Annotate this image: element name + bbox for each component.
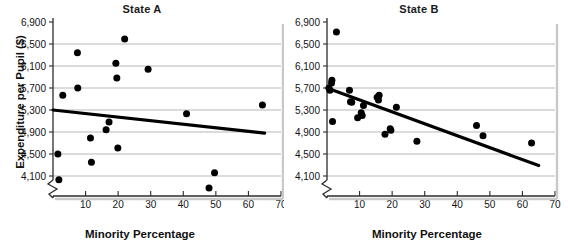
scatter-point: [473, 122, 480, 129]
scatter-point: [88, 159, 95, 166]
scatter-point: [381, 131, 388, 138]
scatter-point: [329, 118, 336, 125]
y-axis-break-icon: [48, 180, 57, 198]
scatter-point: [113, 75, 120, 82]
y-tick-label: 4,500: [295, 149, 320, 160]
y-tick-label: 5,300: [21, 105, 46, 116]
y-tick-label: 6,100: [21, 61, 46, 72]
y-tick-label: 6,100: [295, 61, 320, 72]
scatter-point: [55, 176, 62, 183]
x-tick-label: 30: [419, 199, 431, 210]
scatter-point: [259, 102, 266, 109]
scatter-point: [112, 60, 119, 67]
x-tick-label: 10: [354, 199, 366, 210]
plot-area-state-a: 4,1004,5004,9005,3005,7006,1006,5006,900…: [0, 0, 284, 242]
y-tick-label: 5,700: [21, 83, 46, 94]
scatter-point: [328, 77, 335, 84]
x-tick-label: 10: [80, 199, 92, 210]
scatter-point: [211, 169, 218, 176]
y-tick-label: 4,900: [295, 127, 320, 138]
x-tick-label: 50: [484, 199, 496, 210]
scatter-point: [376, 92, 383, 99]
scatter-point: [480, 132, 487, 139]
x-tick-label: 20: [113, 199, 125, 210]
y-tick-label: 6,500: [21, 39, 46, 50]
x-tick-label: 60: [517, 199, 529, 210]
y-tick-label: 6,900: [21, 17, 46, 28]
x-tick-label: 60: [243, 199, 255, 210]
scatter-point: [393, 104, 400, 111]
scatter-point: [359, 112, 366, 119]
x-axis-label-state-b: Minority Percentage: [302, 228, 552, 240]
scatter-point: [528, 140, 535, 147]
chart-panel-state-a: State A Expenditure per Pupil ($) 4,1004…: [0, 0, 284, 242]
regression-line: [53, 110, 265, 133]
scatter-point: [121, 36, 128, 43]
chart-panel-state-b: State B 4,1004,5004,9005,3005,7006,1006,…: [284, 0, 568, 242]
y-tick-label: 6,900: [295, 17, 320, 28]
x-tick-label: 20: [387, 199, 399, 210]
scatter-point: [59, 92, 66, 99]
x-tick-label: 70: [275, 199, 284, 210]
scatter-point: [54, 151, 61, 158]
scatter-point: [103, 126, 110, 133]
y-tick-label: 5,300: [295, 105, 320, 116]
x-axis-label-state-a: Minority Percentage: [20, 228, 260, 240]
scatter-point: [183, 110, 190, 117]
x-tick-label: 70: [549, 199, 561, 210]
scatter-point: [206, 185, 213, 192]
scatter-point: [87, 135, 94, 142]
x-tick-label: 40: [452, 199, 464, 210]
scatter-point: [145, 66, 152, 73]
y-tick-label: 4,100: [295, 171, 320, 182]
y-tick-label: 5,700: [295, 83, 320, 94]
scatter-point: [74, 49, 81, 56]
scatter-point: [360, 102, 367, 109]
scatter-point: [346, 87, 353, 94]
y-tick-label: 4,100: [21, 171, 46, 182]
x-tick-label: 30: [145, 199, 157, 210]
scatter-point: [387, 127, 394, 134]
scatter-point: [413, 138, 420, 145]
scatter-point: [114, 144, 121, 151]
figure-root: State A Expenditure per Pupil ($) 4,1004…: [0, 0, 568, 242]
scatter-point: [326, 87, 333, 94]
y-axis-break-icon: [322, 180, 331, 198]
scatter-point: [74, 85, 81, 92]
plot-area-state-b: 4,1004,5004,9005,3005,7006,1006,5006,900…: [284, 0, 568, 242]
y-tick-label: 4,900: [21, 127, 46, 138]
y-tick-label: 4,500: [21, 149, 46, 160]
scatter-point: [106, 119, 113, 126]
y-tick-label: 6,500: [295, 39, 320, 50]
x-tick-label: 50: [210, 199, 222, 210]
scatter-point: [333, 28, 340, 35]
x-tick-label: 40: [178, 199, 190, 210]
scatter-point: [348, 99, 355, 106]
